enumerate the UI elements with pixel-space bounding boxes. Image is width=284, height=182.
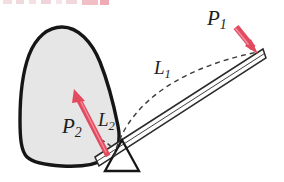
label-l2: L2 [98,110,115,132]
figure-canvas: P1 P2 L1 L2 [0,0,284,182]
label-l2-sub: 2 [109,119,115,133]
label-p1: P1 [207,8,227,32]
label-p2-sub: 2 [75,125,82,140]
label-p1-sub: 1 [220,17,227,32]
lever-bar [95,49,266,166]
label-l2-base: L [98,109,109,130]
top-edge-artifact [3,0,109,5]
lever-force-diagram-svg [0,0,284,182]
force-arrow-p1 [236,27,258,54]
label-l1-sub: 1 [165,67,171,81]
label-l1: L1 [154,58,171,80]
label-l1-base: L [154,57,165,78]
label-p1-base: P [207,6,220,30]
label-p2: P2 [62,116,82,140]
label-p2-base: P [62,114,75,138]
